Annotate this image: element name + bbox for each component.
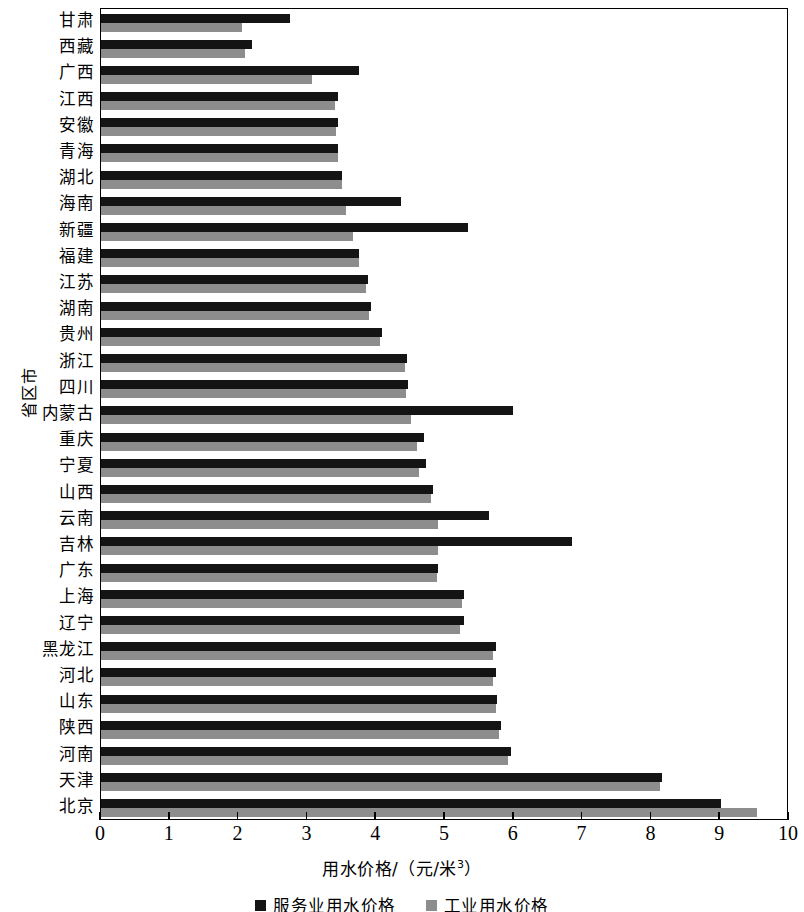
bar-group bbox=[101, 690, 787, 716]
bar-industry-price bbox=[101, 651, 493, 660]
bar-service-price bbox=[101, 590, 464, 599]
x-axis-tick-label: 8 bbox=[645, 822, 655, 845]
chart-page: 省区市 甘肃西藏广西江西安徽青海湖北海南新疆福建江苏湖南贵州浙江四川内蒙古重庆宁… bbox=[0, 0, 804, 912]
x-axis-tick-mark bbox=[168, 812, 170, 820]
x-axis-tick-mark bbox=[443, 812, 445, 820]
bar-group bbox=[101, 88, 787, 114]
y-axis-category-label: 青海 bbox=[59, 143, 94, 160]
bars-layer bbox=[101, 9, 787, 819]
bar-service-price bbox=[101, 747, 511, 756]
y-axis-category-label: 湖南 bbox=[59, 300, 94, 317]
bar-service-price bbox=[101, 197, 401, 206]
bar-industry-price bbox=[101, 153, 338, 162]
bar-group bbox=[101, 297, 787, 323]
bar-service-price bbox=[101, 406, 513, 415]
legend-swatch-icon bbox=[255, 900, 266, 911]
bar-industry-price bbox=[101, 442, 417, 451]
bar-group bbox=[101, 245, 787, 271]
x-axis-tick-label: 1 bbox=[164, 822, 174, 845]
bar-group bbox=[101, 716, 787, 742]
plot-area bbox=[100, 8, 788, 820]
bar-group bbox=[101, 61, 787, 87]
bar-industry-price bbox=[101, 625, 460, 634]
bar-group bbox=[101, 350, 787, 376]
y-axis-category-label: 宁夏 bbox=[59, 457, 94, 474]
bar-group bbox=[101, 219, 787, 245]
bar-industry-price bbox=[101, 573, 437, 582]
bar-service-price bbox=[101, 695, 497, 704]
legend-label: 工业用水价格 bbox=[444, 893, 549, 912]
bar-service-price bbox=[101, 66, 359, 75]
bar-industry-price bbox=[101, 782, 660, 791]
y-axis-category-label: 广西 bbox=[59, 64, 94, 81]
bar-group bbox=[101, 769, 787, 795]
bar-group bbox=[101, 402, 787, 428]
bar-group bbox=[101, 742, 787, 768]
bar-service-price bbox=[101, 564, 438, 573]
bar-service-price bbox=[101, 616, 464, 625]
y-axis-category-label: 河南 bbox=[59, 746, 94, 763]
bar-service-price bbox=[101, 354, 407, 363]
bar-industry-price bbox=[101, 206, 346, 215]
y-axis-category-label: 山西 bbox=[59, 484, 94, 501]
y-axis-category-label: 西藏 bbox=[59, 38, 94, 55]
y-axis-category-label: 安徽 bbox=[59, 117, 94, 134]
bar-service-price bbox=[101, 537, 572, 546]
bar-group bbox=[101, 533, 787, 559]
bar-group bbox=[101, 323, 787, 349]
bar-service-price bbox=[101, 118, 338, 127]
bar-service-price bbox=[101, 380, 408, 389]
bar-service-price bbox=[101, 459, 426, 468]
y-axis-category-label: 山东 bbox=[59, 693, 94, 710]
bar-industry-price bbox=[101, 258, 359, 267]
x-axis-title: 用水价格/（元/米3） bbox=[0, 855, 804, 880]
bar-industry-price bbox=[101, 363, 405, 372]
bar-group bbox=[101, 35, 787, 61]
bar-industry-price bbox=[101, 468, 419, 477]
x-axis-tick-label: 9 bbox=[714, 822, 724, 845]
bar-service-price bbox=[101, 668, 496, 677]
bar-industry-price bbox=[101, 599, 462, 608]
bar-service-price bbox=[101, 40, 252, 49]
y-axis-category-label: 贵州 bbox=[59, 326, 94, 343]
y-axis-category-label: 浙江 bbox=[59, 353, 94, 370]
y-axis-category-labels: 甘肃西藏广西江西安徽青海湖北海南新疆福建江苏湖南贵州浙江四川内蒙古重庆宁夏山西云… bbox=[0, 8, 98, 820]
bar-industry-price bbox=[101, 677, 493, 686]
bar-group bbox=[101, 271, 787, 297]
bar-service-price bbox=[101, 721, 501, 730]
bar-industry-price bbox=[101, 546, 438, 555]
y-axis-category-label: 云南 bbox=[59, 510, 94, 527]
bar-group bbox=[101, 559, 787, 585]
y-axis-category-label: 新疆 bbox=[59, 222, 94, 239]
bar-service-price bbox=[101, 302, 371, 311]
bar-service-price bbox=[101, 144, 338, 153]
bar-group bbox=[101, 507, 787, 533]
x-axis-tick-mark bbox=[99, 812, 101, 820]
x-axis-tick-label: 6 bbox=[508, 822, 518, 845]
legend-item: 工业用水价格 bbox=[426, 893, 549, 912]
x-axis-tick-label: 0 bbox=[95, 822, 105, 845]
y-axis-category-label: 湖北 bbox=[59, 169, 94, 186]
bar-group bbox=[101, 192, 787, 218]
y-axis-category-label: 北京 bbox=[59, 798, 94, 815]
x-axis-tick-label: 7 bbox=[577, 822, 587, 845]
bar-industry-price bbox=[101, 311, 369, 320]
bar-group bbox=[101, 611, 787, 637]
y-axis-category-label: 内蒙古 bbox=[42, 405, 95, 422]
bar-industry-price bbox=[101, 808, 757, 817]
bar-service-price bbox=[101, 433, 424, 442]
y-axis-category-label: 陕西 bbox=[59, 719, 94, 736]
bar-service-price bbox=[101, 14, 290, 23]
chart-legend: 服务业用水价格工业用水价格 bbox=[0, 893, 804, 912]
bar-service-price bbox=[101, 642, 496, 651]
bar-group bbox=[101, 376, 787, 402]
bar-industry-price bbox=[101, 520, 438, 529]
bar-group bbox=[101, 454, 787, 480]
bar-industry-price bbox=[101, 756, 508, 765]
bar-industry-price bbox=[101, 49, 245, 58]
x-axis-ticks: 012345678910 bbox=[0, 820, 804, 850]
bar-service-price bbox=[101, 328, 382, 337]
bar-industry-price bbox=[101, 101, 335, 110]
bar-group bbox=[101, 480, 787, 506]
y-axis-category-label: 海南 bbox=[59, 195, 94, 212]
